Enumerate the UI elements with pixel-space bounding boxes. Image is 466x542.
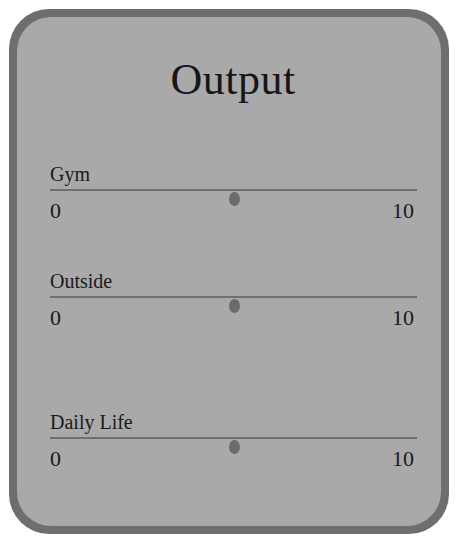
slider-max-label: 10 <box>392 306 414 330</box>
slider-gym: Gym 0 10 <box>50 163 417 233</box>
slider-track[interactable] <box>50 189 417 191</box>
slider-knob[interactable] <box>229 440 240 454</box>
panel-title: Output <box>0 52 466 108</box>
slider-min-label: 0 <box>50 306 61 330</box>
slider-label: Gym <box>50 163 90 185</box>
slider-track[interactable] <box>50 437 417 439</box>
slider-max-label: 10 <box>392 447 414 471</box>
slider-knob[interactable] <box>229 192 240 206</box>
slider-knob[interactable] <box>229 299 240 313</box>
slider-max-label: 10 <box>392 199 414 223</box>
slider-min-label: 0 <box>50 447 61 471</box>
slider-label: Daily Life <box>50 411 133 433</box>
slider-track[interactable] <box>50 296 417 298</box>
slider-label: Outside <box>50 270 112 292</box>
slider-outside: Outside 0 10 <box>50 270 417 340</box>
slider-daily-life: Daily Life 0 10 <box>50 411 417 481</box>
slider-min-label: 0 <box>50 199 61 223</box>
